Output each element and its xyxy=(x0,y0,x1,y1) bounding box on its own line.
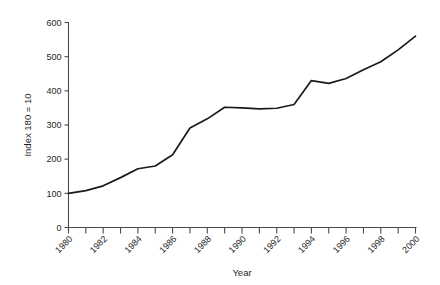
data-line-index xyxy=(69,36,416,193)
y-axis: 0100200300400500600 xyxy=(46,18,68,233)
x-axis-tick-label: 1998 xyxy=(365,234,386,255)
x-axis-title: Year xyxy=(232,267,251,278)
x-axis: 1980198219841986198819901992199419961998… xyxy=(53,228,421,256)
y-axis-tick-label: 400 xyxy=(46,86,61,96)
x-axis-tick-label: 1990 xyxy=(227,234,248,255)
x-axis-tick-label: 1988 xyxy=(192,234,213,255)
x-axis-tick-label: 1986 xyxy=(157,234,178,255)
y-axis-tick-label: 100 xyxy=(46,189,61,199)
x-axis-tick-label: 1992 xyxy=(261,234,282,255)
y-axis-tick-label: 0 xyxy=(56,223,61,233)
chart-figure: 0100200300400500600 19801982198419861988… xyxy=(0,0,440,285)
y-axis-tick-label: 200 xyxy=(46,154,61,164)
x-axis-tick-label: 1994 xyxy=(296,234,317,255)
x-axis-tick-label: 1980 xyxy=(53,234,74,255)
line-chart: 0100200300400500600 19801982198419861988… xyxy=(0,0,440,285)
data-series-index xyxy=(69,36,416,193)
x-axis-tick-label: 1984 xyxy=(123,234,144,255)
y-axis-tick-label: 300 xyxy=(46,120,61,130)
y-axis-tick-label: 500 xyxy=(46,52,61,62)
y-axis-title: Index 180 = 10 xyxy=(22,93,33,156)
x-axis-tick-label: 1982 xyxy=(88,234,109,255)
x-axis-tick-label: 2000 xyxy=(400,234,421,255)
x-axis-tick-label: 1996 xyxy=(331,234,352,255)
y-axis-tick-label: 600 xyxy=(46,18,61,28)
